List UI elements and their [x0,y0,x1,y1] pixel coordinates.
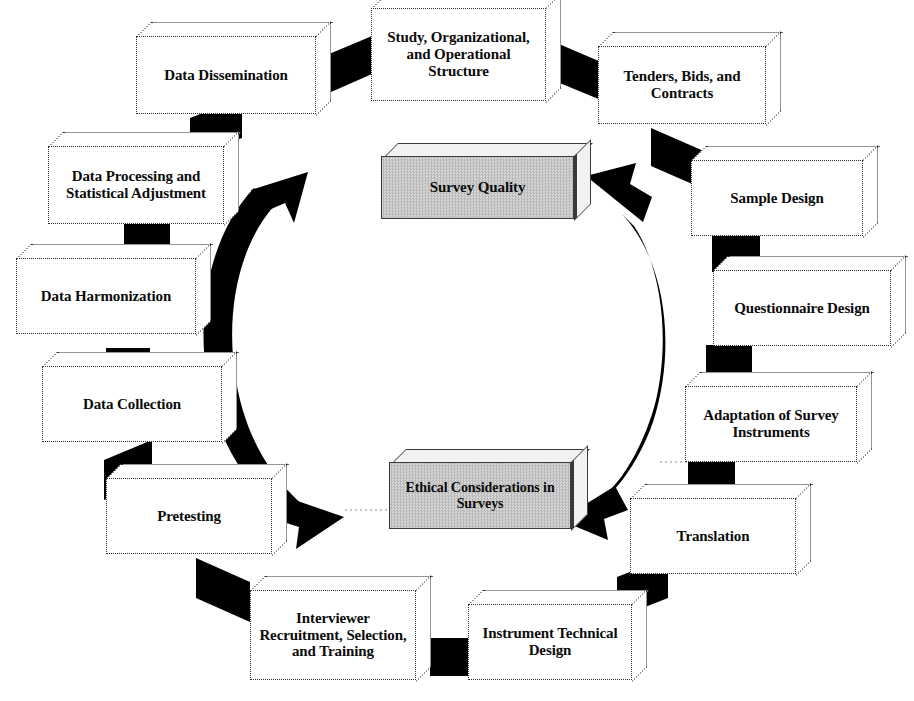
node-label: Tenders, Bids, and Contracts [599,68,765,102]
box-top-face [42,352,239,367]
node-label: Instrument Technical Design [469,625,631,659]
node-tenders-bids-contracts[interactable]: Tenders, Bids, and Contracts [598,46,766,124]
box-top-face [713,256,908,271]
node-adaptation-survey-instruments[interactable]: Adaptation of Survey Instruments [685,386,857,462]
node-data-harmonization[interactable]: Data Harmonization [16,258,196,334]
box-top-face [106,464,289,479]
box-side-face [891,255,906,348]
node-instrument-technical-design[interactable]: Instrument Technical Design [468,604,632,680]
node-questionnaire-design[interactable]: Questionnaire Design [713,270,891,346]
box-side-face [196,243,211,336]
box-side-face [857,371,872,464]
box-top-face [685,372,874,387]
node-data-processing[interactable]: Data Processing and Statistical Adjustme… [48,146,224,224]
box-side-face [416,575,431,682]
box-side-face [766,31,781,126]
node-label: Ethical Considerations in Surveys [390,480,570,511]
box-side-face [316,21,331,116]
box-top-face [250,576,433,591]
box-side-face [796,483,811,576]
node-data-dissemination[interactable]: Data Dissemination [136,36,316,114]
box-side-face [222,351,237,444]
node-data-collection[interactable]: Data Collection [42,366,222,442]
box-top-face [48,132,241,147]
connector-band [430,638,472,676]
node-sample-design[interactable]: Sample Design [691,160,863,236]
box-top-face [691,146,880,161]
node-label: Translation [671,528,756,545]
node-label: Data Collection [77,396,187,413]
box-side-face [546,0,561,103]
survey-lifecycle-diagram: Survey Quality Ethical Considerations in… [0,0,914,701]
box-top-face [136,22,333,37]
node-label: Questionnaire Design [728,300,876,317]
node-study-structure[interactable]: Study, Organizational, and Operational S… [371,8,546,101]
node-ethical-considerations[interactable]: Ethical Considerations in Surveys [389,462,571,529]
node-translation[interactable]: Translation [630,498,796,574]
node-label: Data Processing and Statistical Adjustme… [49,168,223,202]
node-survey-quality[interactable]: Survey Quality [381,156,574,219]
box-top-face [630,484,813,499]
node-interviewer-recruitment[interactable]: Interviewer Recruitment, Selection, and … [250,590,416,680]
connector-band [196,558,250,622]
box-side-face [224,131,239,226]
box-side-face [272,463,287,556]
node-label: Sample Design [724,190,829,207]
box-top-face [468,590,649,605]
node-label: Data Dissemination [158,67,294,84]
box-side-face [632,589,647,682]
node-label: Pretesting [151,508,227,525]
node-label: Study, Organizational, and Operational S… [372,29,545,79]
node-pretesting[interactable]: Pretesting [106,478,272,554]
box-top-face [16,244,213,259]
box-side-face [863,145,878,238]
node-label: Interviewer Recruitment, Selection, and … [251,610,415,660]
box-top-face [598,32,783,47]
node-label: Adaptation of Survey Instruments [686,407,856,441]
node-label: Survey Quality [424,179,532,196]
node-label: Data Harmonization [35,288,177,305]
